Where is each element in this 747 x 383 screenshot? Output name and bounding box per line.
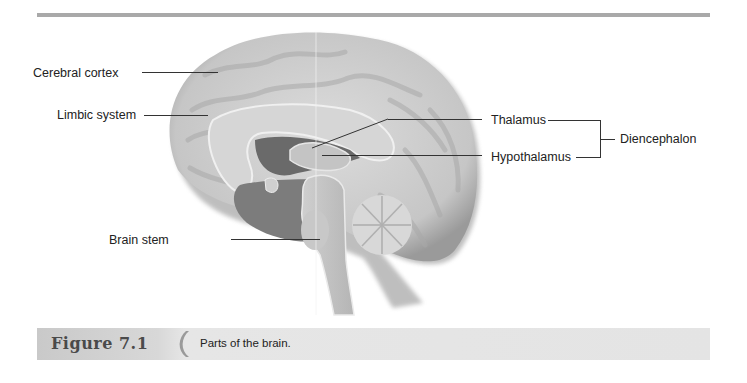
leader-thalamus bbox=[388, 119, 482, 120]
leader-limbic-system bbox=[144, 115, 208, 116]
leader-cerebral-cortex bbox=[142, 72, 218, 73]
figure-caption: Parts of the brain. bbox=[200, 337, 291, 349]
leader-hypothalamus bbox=[322, 155, 482, 156]
label-hypothalamus: Hypothalamus bbox=[491, 150, 571, 164]
brain-figure: Cerebral cortex Limbic system Brain stem… bbox=[0, 0, 747, 320]
label-cerebral-cortex: Cerebral cortex bbox=[33, 66, 118, 80]
caption-divider-icon bbox=[177, 330, 191, 358]
label-limbic-system: Limbic system bbox=[57, 108, 136, 122]
figure-caption-bar: Figure 7.1 Parts of the brain. bbox=[37, 328, 710, 360]
leader-diencephalon bbox=[601, 139, 615, 140]
cerebellum-shape bbox=[352, 195, 412, 255]
figure-number: Figure 7.1 bbox=[51, 334, 148, 353]
label-brain-stem: Brain stem bbox=[109, 233, 169, 247]
leader-brain-stem bbox=[231, 239, 320, 240]
brain-illustration bbox=[0, 0, 747, 320]
label-thalamus: Thalamus bbox=[491, 113, 546, 127]
label-diencephalon: Diencephalon bbox=[620, 132, 696, 146]
diencephalon-bracket bbox=[590, 120, 601, 158]
